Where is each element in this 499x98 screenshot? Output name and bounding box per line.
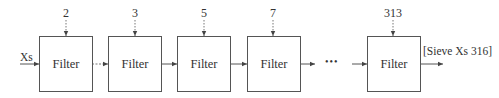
filter-box-5: Filter <box>367 36 421 92</box>
filter-label: Filter <box>109 57 161 72</box>
input-label: Xs <box>20 51 33 63</box>
filter-box-4: Filter <box>247 36 301 92</box>
sieve-filter-pipeline-diagram: Xs 2 3 5 7 313 Filter Filter Filter Filt… <box>0 0 499 98</box>
filter-label: Filter <box>178 57 230 72</box>
filter-label: Filter <box>248 57 300 72</box>
ellipsis: ••• <box>325 56 339 67</box>
filter-label: Filter <box>368 57 420 72</box>
output-label: [Sieve Xs 316] <box>423 45 492 57</box>
filter-box-2: Filter <box>108 36 162 92</box>
filter-box-3: Filter <box>177 36 231 92</box>
filter-param-1: 2 <box>51 6 81 21</box>
filter-box-1: Filter <box>39 36 93 92</box>
filter-label: Filter <box>40 57 92 72</box>
filter-param-4: 7 <box>258 6 288 21</box>
filter-param-2: 3 <box>120 6 150 21</box>
filter-param-3: 5 <box>189 6 219 21</box>
filter-param-5: 313 <box>378 6 408 21</box>
